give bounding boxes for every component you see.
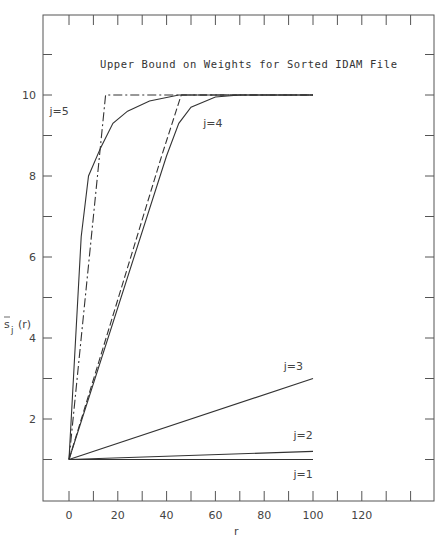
series-annotation: j=3: [283, 360, 303, 373]
series-annotation: j=5: [48, 105, 68, 118]
svg-text:s: s: [4, 318, 10, 331]
x-tick-label: 0: [66, 509, 73, 522]
axis-labels: 020406080100120246810j=5j=4j=3j=2j=1: [22, 89, 372, 522]
y-tick-label: 10: [22, 89, 36, 102]
y-tick-label: 4: [29, 332, 36, 345]
series-j-2: [69, 451, 313, 459]
x-tick-label: 80: [257, 509, 271, 522]
axis-ticks: [43, 15, 434, 501]
x-tick-label: 100: [303, 509, 324, 522]
chart-title: Upper Bound on Weights for Sorted IDAM F…: [100, 58, 398, 70]
x-tick-label: 20: [111, 509, 125, 522]
plot-frame: [43, 15, 434, 501]
y-tick-label: 8: [29, 170, 36, 183]
chart: 020406080100120246810j=5j=4j=3j=2j=1 Upp…: [0, 0, 439, 540]
series-j-4-bound: [69, 95, 313, 460]
x-tick-label: 40: [160, 509, 174, 522]
svg-text:(r): (r): [18, 318, 31, 331]
y-axis-label: s j (r): [4, 317, 31, 335]
series-j-4: [69, 95, 313, 460]
y-tick-label: 2: [29, 413, 36, 426]
svg-text:j: j: [10, 325, 14, 335]
series-annotation: j=2: [292, 429, 312, 442]
series-j-5-bound: [69, 95, 313, 460]
x-tick-label: 60: [208, 509, 222, 522]
y-tick-label: 6: [29, 251, 36, 264]
series-j-5: [69, 95, 313, 460]
series-j-3: [69, 379, 313, 460]
series-annotation: j=4: [202, 117, 222, 130]
x-tick-label: 120: [351, 509, 372, 522]
x-axis-label: r: [234, 525, 239, 538]
series-lines: [69, 95, 313, 460]
series-annotation: j=1: [292, 468, 312, 481]
